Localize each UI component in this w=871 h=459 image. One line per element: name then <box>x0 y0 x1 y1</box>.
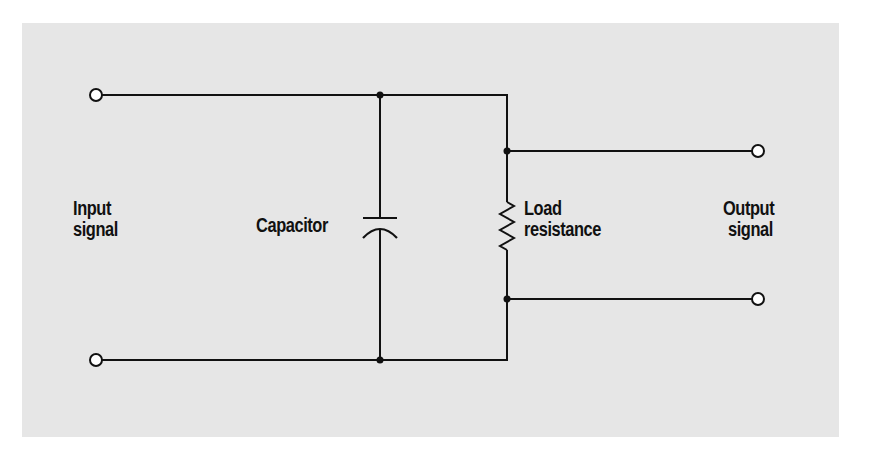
input-signal-label: Input signal <box>73 198 118 240</box>
load-label-line1: Load <box>524 198 601 219</box>
output-bottom-terminal-icon <box>752 293 764 305</box>
output-signal-label: Output signal <box>723 198 774 240</box>
input-label-line2: signal <box>73 219 118 240</box>
junction-dot-icon <box>377 357 384 364</box>
load-label-line2: resistance <box>524 219 601 240</box>
junction-dot-icon <box>504 148 511 155</box>
input-label-line1: Input <box>73 198 118 219</box>
junction-dot-icon <box>504 296 511 303</box>
capacitor-symbol <box>363 95 397 360</box>
capacitor-label-text: Capacitor <box>256 215 328 236</box>
output-top-terminal-icon <box>752 145 764 157</box>
input-top-terminal-icon <box>90 89 102 101</box>
capacitor-label: Capacitor <box>256 215 328 236</box>
junction-dot-icon <box>377 92 384 99</box>
resistor-symbol <box>500 95 514 360</box>
load-resistance-label: Load resistance <box>524 198 601 240</box>
output-label-line1: Output <box>723 198 774 219</box>
output-label-line2: signal <box>723 219 774 240</box>
input-bottom-terminal-icon <box>90 354 102 366</box>
